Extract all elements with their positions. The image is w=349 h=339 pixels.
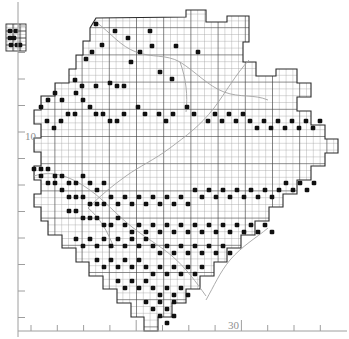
occupancy-dot: [207, 223, 212, 228]
occupancy-dot: [116, 202, 121, 207]
occupancy-dot: [88, 105, 93, 110]
occupancy-dot: [284, 181, 289, 186]
occupancy-dot: [179, 272, 184, 277]
occupancy-dot: [46, 167, 51, 172]
occupancy-dot: [196, 50, 201, 55]
occupancy-dot: [311, 126, 316, 131]
occupancy-dot: [270, 195, 275, 200]
occupancy-dot: [67, 181, 72, 186]
occupancy-dot: [235, 223, 240, 228]
occupancy-dot: [158, 251, 163, 256]
occupancy-dot: [74, 237, 79, 242]
occupancy-dot: [115, 84, 120, 89]
occupancy-dot: [298, 181, 303, 186]
occupancy-dot: [137, 223, 142, 228]
occupancy-dot: [158, 265, 163, 270]
occupancy-dot: [73, 112, 78, 117]
occupancy-dot: [95, 258, 100, 263]
occupancy-dot: [200, 195, 205, 200]
occupancy-dot: [256, 195, 261, 200]
occupancy-dot: [148, 29, 153, 34]
occupancy-dot: [200, 230, 205, 235]
occupancy-dot: [179, 195, 184, 200]
occupancy-dot: [74, 91, 79, 96]
occupancy-dot: [90, 50, 95, 55]
occupancy-dot: [221, 223, 226, 228]
occupancy-dot: [291, 188, 296, 193]
occupancy-dot: [130, 237, 135, 242]
occupancy-dot: [109, 195, 114, 200]
occupancy-dot: [165, 244, 170, 249]
occupancy-dot: [95, 216, 100, 221]
occupancy-dot: [227, 112, 232, 117]
occupancy-dot: [151, 307, 156, 312]
occupancy-dot: [283, 126, 288, 131]
occupancy-dot: [186, 202, 191, 207]
occupancy-dot: [165, 307, 170, 312]
occupancy-dot: [193, 188, 198, 193]
occupancy-dot: [214, 251, 219, 256]
occupancy-dot: [74, 195, 79, 200]
occupancy-dot: [67, 195, 72, 200]
occupancy-dot: [137, 258, 142, 263]
occupancy-dot: [171, 112, 176, 117]
occupancy-dot: [123, 286, 128, 291]
occupancy-dot: [179, 244, 184, 249]
outlier-occupancy-dot: [8, 36, 13, 41]
occupancy-dot: [88, 202, 93, 207]
occupancy-dot: [100, 43, 105, 48]
x-axis-label-30: 30: [228, 319, 239, 331]
occupancy-dot: [174, 44, 179, 49]
occupancy-dot: [39, 174, 44, 179]
occupancy-dot: [109, 223, 114, 228]
occupancy-dot: [151, 286, 156, 291]
occupancy-dot: [172, 293, 177, 298]
occupancy-dot: [144, 202, 149, 207]
occupancy-dot: [151, 272, 156, 277]
occupancy-dot: [255, 126, 260, 131]
occupancy-dot: [129, 60, 134, 65]
occupancy-dot: [123, 244, 128, 249]
occupancy-dot: [248, 119, 253, 124]
occupancy-dot: [263, 188, 268, 193]
occupancy-dot: [290, 119, 295, 124]
occupancy-dot: [116, 237, 121, 242]
occupancy-dot: [186, 230, 191, 235]
occupancy-dot: [172, 251, 177, 256]
occupancy-dot: [46, 181, 51, 186]
occupancy-dot: [172, 265, 177, 270]
occupancy-dot: [172, 300, 177, 305]
occupancy-dot: [221, 244, 226, 249]
occupancy-dot: [123, 223, 128, 228]
occupancy-dot: [94, 84, 99, 89]
occupancy-dot: [220, 119, 225, 124]
occupancy-dot: [249, 223, 254, 228]
y-axis-label-10: 10: [25, 130, 36, 142]
occupancy-dot: [214, 230, 219, 235]
occupancy-dot: [116, 265, 121, 270]
occupancy-dot: [130, 265, 135, 270]
occupancy-dot: [126, 36, 131, 41]
occupancy-dot: [151, 244, 156, 249]
occupancy-dot: [137, 195, 142, 200]
occupancy-dot: [249, 188, 254, 193]
occupancy-dot: [53, 181, 58, 186]
occupancy-dot: [137, 244, 142, 249]
occupancy-dot: [228, 251, 233, 256]
occupancy-dot: [206, 119, 211, 124]
occupancy-dot: [144, 279, 149, 284]
occupancy-dot: [115, 119, 120, 124]
occupancy-dot: [143, 112, 148, 117]
occupancy-dot: [81, 174, 86, 179]
occupancy-dot: [144, 300, 149, 305]
occupancy-dot: [60, 188, 65, 193]
occupancy-dot: [94, 112, 99, 117]
occupancy-dot: [151, 223, 156, 228]
occupancy-dot: [158, 70, 163, 75]
occupancy-dot: [116, 216, 121, 221]
outlier-occupancy-dot: [12, 36, 17, 41]
occupancy-dot: [122, 84, 127, 89]
occupancy-dot: [256, 230, 261, 235]
occupancy-dot: [84, 57, 89, 62]
occupancy-dot: [88, 237, 93, 242]
